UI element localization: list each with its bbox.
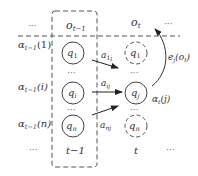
alpha-t-label: αt(j) bbox=[152, 94, 171, 105]
state-prev-qi: qi bbox=[62, 82, 84, 104]
time-prev-label: t−1 bbox=[66, 145, 85, 156]
state-prev-qn: qn bbox=[62, 115, 84, 137]
obs-prev-label: ot−1 bbox=[66, 19, 86, 33]
svg-text:qj: qj bbox=[131, 87, 139, 100]
top-left-ellipsis: ··· bbox=[28, 21, 37, 31]
prev-vertical-ellipsis-2: ··· bbox=[67, 105, 76, 115]
alpha-label-n: αt−1(n) bbox=[18, 118, 51, 131]
obs-curr-label: ot bbox=[131, 16, 141, 30]
transition-label-ij: aij bbox=[101, 78, 110, 90]
curr-vertical-ellipsis-1: ··· bbox=[130, 68, 139, 78]
hmm-forward-diagram: ··· ot−1 ot ··· αt−1(1) αt−1(i) αt−1(n) … bbox=[0, 0, 198, 176]
transition-label-nj: anj bbox=[100, 120, 111, 132]
svg-text:qi: qi bbox=[68, 87, 77, 100]
alpha-label-i: αt−1(i) bbox=[18, 81, 48, 94]
transition-label-1j: a1j bbox=[101, 50, 112, 62]
bottom-left-ellipsis: ··· bbox=[29, 145, 38, 155]
time-slice-box bbox=[52, 11, 97, 167]
alpha-label-1: αt−1(1) bbox=[18, 39, 51, 52]
time-curr-label: t bbox=[134, 145, 139, 156]
svg-text:q1: q1 bbox=[67, 47, 78, 60]
state-curr-q1: q1 bbox=[125, 42, 147, 64]
state-curr-qj: qj bbox=[125, 82, 147, 104]
prev-vertical-ellipsis-1: ··· bbox=[67, 68, 76, 78]
state-curr-qn: qn bbox=[125, 115, 147, 137]
svg-text:q1: q1 bbox=[130, 47, 141, 60]
curr-vertical-ellipsis-2: ··· bbox=[130, 105, 139, 115]
emission-arrow bbox=[152, 29, 166, 86]
transition-arrow-nj bbox=[92, 106, 118, 115]
svg-text:qn: qn bbox=[66, 120, 77, 133]
emission-label: ej(ot) bbox=[168, 52, 191, 64]
bottom-right-ellipsis: ··· bbox=[166, 145, 175, 155]
state-prev-q1: q1 bbox=[62, 42, 84, 64]
transition-arrow-1j bbox=[92, 60, 118, 68]
svg-text:qn: qn bbox=[129, 120, 140, 133]
top-right-ellipsis: ··· bbox=[164, 19, 173, 29]
